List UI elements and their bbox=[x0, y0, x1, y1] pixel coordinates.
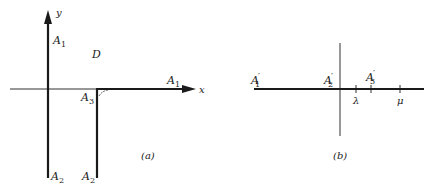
label-mu: μ bbox=[397, 95, 404, 106]
x-axis-arrow-icon bbox=[182, 85, 196, 93]
label-a1-right: A1 bbox=[166, 74, 180, 89]
label-lambda: λ bbox=[352, 95, 359, 106]
label-a3-prime: A′3 bbox=[365, 69, 375, 86]
label-a3: A3 bbox=[80, 91, 94, 106]
panel-b: A′1 A′2 A′3 λ μ (b) bbox=[250, 43, 424, 161]
label-a2-right: A2 bbox=[81, 170, 95, 185]
label-a2-prime: A′2 bbox=[323, 72, 333, 89]
label-a1-top: A1 bbox=[52, 34, 66, 49]
y-axis-arrow-icon bbox=[44, 10, 52, 24]
diagram-canvas: y x A1 D A1 A3 A2 A2 (a) A′1 A′2 A′3 λ μ… bbox=[0, 0, 434, 193]
caption-a: (a) bbox=[141, 150, 155, 161]
label-a1-prime: A′1 bbox=[250, 72, 260, 89]
label-a2-left: A2 bbox=[50, 170, 64, 185]
x-axis-label: x bbox=[199, 84, 205, 95]
label-region-d: D bbox=[91, 48, 101, 61]
panel-a: y x A1 D A1 A3 A2 A2 (a) bbox=[10, 7, 205, 185]
y-axis-label: y bbox=[55, 7, 62, 18]
caption-b: (b) bbox=[333, 150, 347, 161]
corner-arc bbox=[99, 90, 108, 96]
